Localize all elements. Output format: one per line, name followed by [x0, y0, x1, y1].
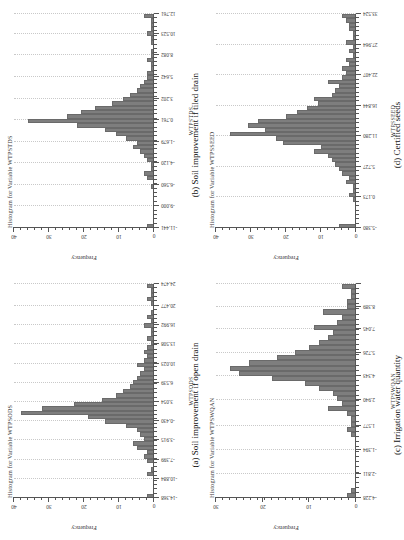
histogram-bar: [318, 101, 357, 105]
histogram-bar: [137, 446, 155, 450]
x-tick-minor: [356, 314, 359, 315]
histogram-bar: [337, 396, 356, 401]
x-tick-minor: [356, 431, 359, 432]
y-tick-minor: [271, 227, 272, 230]
histogram-bar: [314, 97, 356, 101]
y-tick-minor: [264, 227, 265, 230]
x-tick-minor: [356, 214, 359, 215]
x-tick-minor: [154, 449, 157, 450]
y-tick-minor: [243, 497, 244, 500]
histogram-bar: [333, 391, 356, 396]
x-tick-minor: [154, 427, 157, 428]
x-tick-minor: [154, 17, 157, 18]
x-tick-label: -1.679: [161, 139, 175, 145]
x-tick-minor: [154, 26, 157, 27]
y-tick-minor: [97, 227, 98, 230]
histogram-bar: [74, 402, 155, 406]
histogram-bar: [342, 315, 356, 320]
x-tick-minor: [356, 188, 359, 189]
bar-series-a: [14, 284, 154, 498]
x-tick-label: 5.642: [161, 74, 173, 80]
y-tick-minor: [104, 497, 105, 500]
x-tick-minor: [356, 65, 359, 66]
x-tick: [356, 283, 361, 284]
x-tick-minor: [154, 70, 157, 71]
histogram-bar: [102, 398, 155, 402]
x-tick-minor: [356, 205, 359, 206]
histogram-bar: [328, 154, 356, 158]
x-tick: [154, 141, 159, 142]
x-tick-label: 20.477: [161, 303, 176, 309]
x-tick-label: -6.560: [161, 182, 175, 188]
y-tick-minor: [69, 227, 70, 230]
bar-series-c: [216, 284, 356, 498]
x-tick-label: -7.399: [161, 457, 175, 463]
x-tick-minor: [154, 484, 157, 485]
histogram-bar: [314, 325, 356, 330]
y-tick-minor: [125, 227, 126, 230]
x-tick-minor: [154, 357, 157, 358]
y-tick-minor: [285, 227, 286, 230]
x-tick-minor: [154, 322, 157, 323]
x-tick-minor: [154, 383, 157, 384]
x-tick-minor: [356, 109, 359, 110]
histogram-figure-grid: Histogram for Variable WTPSODS010203040F…: [0, 0, 404, 540]
x-tick-minor: [356, 44, 359, 45]
x-tick-minor: [356, 426, 359, 427]
x-tick-minor: [356, 179, 359, 180]
x-tick-minor: [356, 415, 359, 416]
x-tick-minor: [356, 441, 359, 442]
x-tick-minor: [356, 288, 359, 289]
x-tick-minor: [356, 410, 359, 411]
x-tick-minor: [154, 379, 157, 380]
y-axis-c: [216, 497, 356, 498]
y-tick-label: 40: [11, 504, 17, 510]
y-tick-minor: [222, 497, 223, 500]
x-tick-label: -2.811: [363, 471, 377, 477]
y-tick-label: 20: [81, 234, 87, 240]
x-tick-label: 33.524: [363, 11, 378, 17]
x-tick-minor: [154, 105, 157, 106]
x-tick-label: 4.343: [363, 373, 375, 379]
y-axis-label-c: Frequency: [273, 525, 298, 531]
x-tick-label: 7.045: [363, 326, 375, 332]
x-tick-minor: [356, 118, 359, 119]
y-tick-minor: [76, 227, 77, 230]
y-tick-label: 30: [248, 234, 254, 240]
plot-area-b: 010203040Frequency-11.441-9.000-6.560-4.…: [14, 14, 154, 228]
y-tick-minor: [243, 227, 244, 230]
x-tick: [356, 473, 361, 474]
x-tick-minor: [154, 92, 157, 93]
x-tick-minor: [154, 35, 157, 36]
x-tick-minor: [356, 349, 359, 350]
x-tick-minor: [356, 201, 359, 202]
x-tick-label: -4.228: [363, 495, 377, 501]
x-tick-minor: [356, 105, 359, 106]
x-tick-minor: [356, 218, 359, 219]
x-tick-minor: [154, 401, 157, 402]
y-tick-minor: [132, 497, 133, 500]
histogram-bar: [137, 88, 155, 92]
histogram-bar: [276, 136, 357, 140]
x-tick-minor: [154, 140, 157, 141]
x-tick-minor: [356, 223, 359, 224]
x-tick-minor: [154, 423, 157, 424]
x-tick-minor: [356, 375, 359, 376]
x-tick-minor: [154, 432, 157, 433]
histogram-bar: [335, 163, 356, 167]
histogram-bar: [88, 415, 155, 419]
x-tick-minor: [356, 482, 359, 483]
y-axis-a: [14, 497, 154, 498]
y-tick-minor: [327, 497, 328, 500]
histogram-bar: [342, 66, 356, 70]
y-tick-minor: [118, 227, 119, 230]
x-tick-minor: [356, 210, 359, 211]
y-tick-minor: [271, 497, 272, 500]
y-tick-minor: [146, 227, 147, 230]
y-tick-minor: [215, 497, 216, 500]
x-tick-minor: [154, 488, 157, 489]
x-tick-minor: [356, 354, 359, 355]
x-tick-minor: [154, 462, 157, 463]
x-tick-minor: [356, 405, 359, 406]
panel-title-d: Histogram for Variable WTPSSEED: [208, 8, 215, 228]
